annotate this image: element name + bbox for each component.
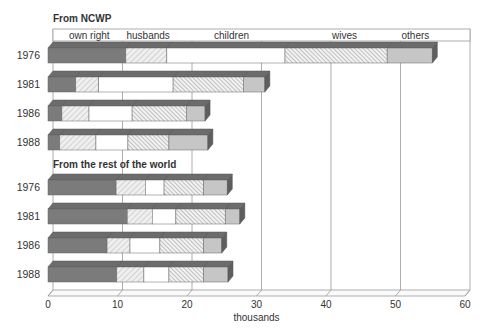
year-label: 1976 [17, 49, 41, 61]
year-label: 1981 [17, 210, 41, 222]
segment-others [387, 48, 432, 63]
segment-others [204, 267, 228, 282]
segment-children [152, 209, 176, 224]
chart-canvas: own righthusbandschildrenwivesothersFrom… [0, 0, 491, 334]
segment-husbands [76, 77, 99, 92]
segment-wives [132, 106, 186, 121]
year-label: 1986 [17, 239, 41, 251]
segment-others [204, 180, 228, 195]
x-tick-label: 0 [45, 299, 51, 310]
year-label: 1988 [17, 136, 41, 148]
segment-others [186, 106, 205, 121]
segment-others [225, 209, 240, 224]
legend-label-own-right: own right [69, 30, 110, 41]
segment-children [96, 135, 128, 150]
bar-1976 [48, 42, 437, 63]
segment-wives [285, 48, 387, 63]
segment-others [204, 238, 222, 253]
bar-1988 [48, 129, 213, 150]
bar-1981 [48, 203, 245, 224]
group-title: From NCWP [53, 13, 112, 24]
x-tick-label: 40 [320, 299, 332, 310]
segment-children [89, 106, 132, 121]
bar-1988 [48, 261, 233, 282]
group-title: From the rest of the world [53, 159, 176, 170]
bar-1986 [48, 232, 227, 253]
segment-children [144, 267, 169, 282]
segment-husbands [116, 180, 145, 195]
segment-own-right [48, 209, 127, 224]
segment-wives [176, 209, 225, 224]
legend-label-wives: wives [331, 30, 357, 41]
segment-own-right [48, 77, 76, 92]
year-label: 1988 [17, 268, 41, 280]
segment-husbands [107, 238, 130, 253]
segment-husbands [117, 267, 144, 282]
bar-1986 [48, 100, 210, 121]
segment-children [167, 48, 285, 63]
segment-wives [128, 135, 169, 150]
year-label: 1976 [17, 181, 41, 193]
segment-own-right [48, 135, 60, 150]
segment-wives [173, 77, 243, 92]
segment-children [145, 180, 164, 195]
segment-wives [164, 180, 204, 195]
legend-label-children: children [214, 30, 249, 41]
year-label: 1981 [17, 78, 41, 90]
x-axis-label: thousands [233, 312, 279, 323]
x-tick-label: 30 [251, 299, 263, 310]
legend-label-husbands: husbands [127, 30, 170, 41]
segment-husbands [62, 106, 89, 121]
segment-husbands [127, 209, 152, 224]
segment-own-right [48, 48, 126, 63]
segment-wives [160, 238, 204, 253]
x-tick-label: 20 [181, 299, 193, 310]
segment-children [130, 238, 160, 253]
segment-wives [169, 267, 204, 282]
segment-others [169, 135, 208, 150]
segment-husbands [126, 48, 167, 63]
x-tick-label: 60 [459, 299, 471, 310]
segment-own-right [48, 180, 116, 195]
segment-own-right [48, 238, 107, 253]
segment-husbands [60, 135, 96, 150]
segment-children [99, 77, 173, 92]
bar-1981 [48, 71, 270, 92]
segment-own-right [48, 106, 62, 121]
bar-1976 [48, 174, 232, 195]
segment-others [243, 77, 265, 92]
x-tick-label: 50 [390, 299, 402, 310]
year-label: 1986 [17, 107, 41, 119]
segment-own-right [48, 267, 117, 282]
legend-label-others: others [402, 30, 430, 41]
stacked-bar-chart: own righthusbandschildrenwivesothersFrom… [0, 0, 491, 334]
x-tick-label: 10 [112, 299, 124, 310]
